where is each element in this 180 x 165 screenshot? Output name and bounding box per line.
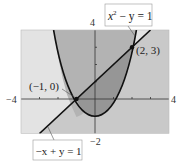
y-max-label: 4 [90, 17, 95, 28]
point-label-neg1-0: (−1, 0) [29, 80, 59, 93]
x-min-label: −4 [6, 94, 17, 105]
y-min-label: −2 [90, 136, 101, 147]
x-max-label: 4 [171, 94, 176, 105]
line-equation: −x + y = 1 [36, 145, 82, 157]
point-label-2-3: (2, 3) [136, 44, 160, 57]
inequality-graph: −4 4 4 −2 (−1, 0) (2, 3) x2 − y = 1 −x +… [0, 0, 180, 165]
point-2-3 [130, 45, 134, 49]
